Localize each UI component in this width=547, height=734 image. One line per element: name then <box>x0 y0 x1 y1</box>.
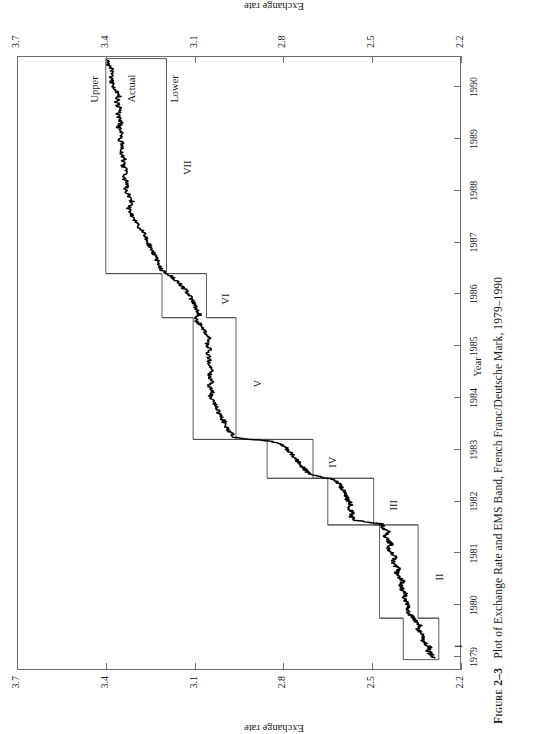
region-label-vi: VI <box>220 294 231 305</box>
y-axis-tick <box>283 663 284 670</box>
y-axis-tick-label: 3.1 <box>188 676 199 706</box>
x-axis-label: Year <box>472 0 483 734</box>
y-axis-tick <box>461 663 462 670</box>
y-axis-tick <box>461 56 462 63</box>
region-label-vii: VII <box>182 161 193 176</box>
figure-number: Figure 2–3 <box>492 668 504 724</box>
y-axis-tick <box>283 56 284 63</box>
y-axis-tick <box>195 663 196 670</box>
x-axis-tick <box>454 397 461 398</box>
y-axis-tick-label: 3.1 <box>188 18 199 48</box>
lower-band-label: Lower <box>169 75 180 102</box>
figure-caption-text: Plot of Exchange Rate and EMS Band, Fren… <box>492 277 504 659</box>
figure-caption: Figure 2–3Plot of Exchange Rate and EMS … <box>492 10 504 724</box>
y-axis-tick-label: 3.4 <box>99 676 110 706</box>
upper-band-label: Upper <box>89 76 100 102</box>
figure: 2.22.22.52.52.82.83.13.13.43.43.73.71979… <box>0 0 547 734</box>
y-axis-tick <box>106 56 107 63</box>
region-label-v: V <box>252 380 263 388</box>
y-axis-tick <box>17 56 18 63</box>
y-axis-tick <box>372 663 373 670</box>
x-axis-tick <box>454 552 461 553</box>
plot-area: 2.22.22.52.52.82.83.13.13.43.43.73.71979… <box>17 56 461 670</box>
y-axis-tick <box>195 56 196 63</box>
x-axis-tick <box>454 86 461 87</box>
y-axis-label-left: Exchange rate <box>244 723 304 734</box>
x-axis-tick <box>454 501 461 502</box>
x-axis-tick <box>454 604 461 605</box>
y-axis-tick-label: 3.7 <box>10 676 21 706</box>
x-axis-tick <box>454 449 461 450</box>
y-axis-tick-label: 2.8 <box>276 18 287 48</box>
y-axis-tick <box>372 56 373 63</box>
plot-svg <box>17 56 461 670</box>
x-axis-tick <box>454 345 461 346</box>
ems-band <box>106 59 439 660</box>
region-label-ii: II <box>434 574 445 581</box>
y-axis-tick-label: 3.7 <box>10 18 21 48</box>
region-label-iii: III <box>388 500 399 511</box>
band-upper-path <box>106 59 403 660</box>
x-axis-tick <box>454 138 461 139</box>
y-axis-label-right: Exchange rate <box>244 1 304 12</box>
actual-series-label: Actual <box>126 75 137 103</box>
region-label-iv: IV <box>327 457 338 468</box>
y-axis-tick-label: 2.8 <box>276 676 287 706</box>
y-axis-tick <box>17 663 18 670</box>
region-label-i: I <box>453 644 464 648</box>
x-axis-tick <box>454 190 461 191</box>
y-axis-tick-label: 2.5 <box>365 676 376 706</box>
band-connectors <box>106 59 439 660</box>
x-axis-tick <box>454 293 461 294</box>
y-axis-tick-label: 2.2 <box>454 676 465 706</box>
rotated-figure-wrapper: 2.22.22.52.52.82.83.13.13.43.43.73.71979… <box>0 0 547 734</box>
y-axis-tick <box>106 663 107 670</box>
x-axis-tick <box>454 656 461 657</box>
y-axis-tick-label: 3.4 <box>99 18 110 48</box>
actual-series-path <box>107 60 435 658</box>
y-axis-tick-label: 2.2 <box>454 18 465 48</box>
y-axis-tick-label: 2.5 <box>365 18 376 48</box>
x-axis-tick <box>454 242 461 243</box>
figure-page: 2.22.22.52.52.82.83.13.13.43.43.73.71979… <box>0 0 547 734</box>
